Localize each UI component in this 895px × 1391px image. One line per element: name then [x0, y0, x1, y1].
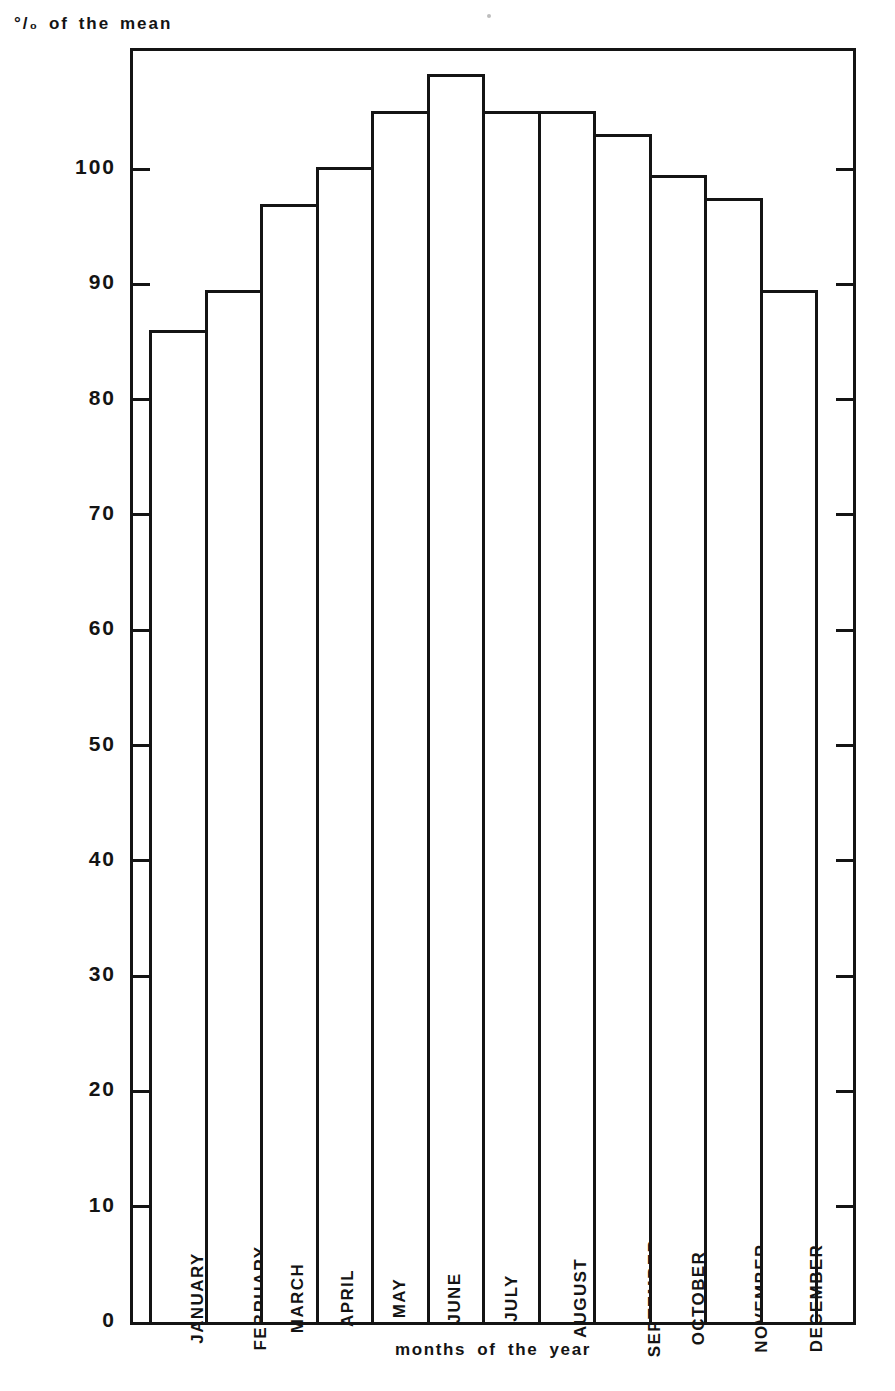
bar-june[interactable]: JUNE	[427, 74, 486, 1325]
y-tick-right-70	[836, 513, 853, 516]
bar-march[interactable]: MARCH	[260, 204, 319, 1325]
y-tick-left-70	[133, 513, 150, 516]
y-tick-left-30	[133, 975, 150, 978]
y-tick-label-60: 60	[40, 616, 116, 640]
bar-may[interactable]: MAY	[371, 111, 430, 1325]
y-tick-left-10	[133, 1205, 150, 1208]
y-tick-left-60	[133, 629, 150, 632]
plot-frame-right	[853, 48, 856, 1325]
page-speck	[487, 14, 491, 18]
bar-december[interactable]: DECEMBER	[760, 290, 819, 1325]
bar-label-wrapper: JUNE	[430, 1288, 483, 1308]
y-tick-left-50	[133, 744, 150, 747]
y-tick-left-40	[133, 859, 150, 862]
bar-january[interactable]: JANUARY	[149, 330, 208, 1325]
bar-label-june: JUNE	[446, 1273, 466, 1324]
y-tick-right-100	[836, 168, 853, 171]
y-tick-label-40: 40	[40, 847, 116, 871]
bar-label-wrapper: OCTOBER	[652, 1288, 705, 1308]
bar-label-wrapper: AUGUST	[541, 1288, 594, 1308]
bar-label-july: JULY	[501, 1274, 521, 1322]
bar-label-march: MARCH	[288, 1263, 308, 1333]
y-tick-label-50: 50	[40, 732, 116, 756]
bar-august[interactable]: AUGUST	[538, 111, 597, 1325]
bar-label-wrapper: JULY	[485, 1288, 538, 1308]
y-tick-left-20	[133, 1090, 150, 1093]
bar-october[interactable]: OCTOBER	[649, 175, 708, 1325]
y-tick-right-60	[836, 629, 853, 632]
y-tick-left-90	[133, 283, 150, 286]
y-tick-label-30: 30	[40, 962, 116, 986]
bar-label-august: AUGUST	[571, 1258, 591, 1338]
bar-label-wrapper: JANUARY	[152, 1288, 205, 1308]
y-tick-right-20	[836, 1090, 853, 1093]
y-tick-label-80: 80	[40, 386, 116, 410]
bar-label-wrapper: APRIL	[319, 1288, 372, 1308]
bar-label-april: APRIL	[338, 1269, 358, 1327]
y-tick-label-90: 90	[40, 270, 116, 294]
y-tick-label-0: 0	[38, 1308, 116, 1332]
bar-label-may: MAY	[390, 1278, 410, 1318]
y-tick-label-10: 10	[40, 1193, 116, 1217]
bar-label-wrapper: MAY	[374, 1288, 427, 1308]
y-tick-right-10	[836, 1205, 853, 1208]
bar-label-wrapper: DECEMBER	[763, 1288, 816, 1308]
y-tick-right-40	[836, 859, 853, 862]
y-tick-label-20: 20	[40, 1077, 116, 1101]
bar-label-wrapper: NOVEMBER	[707, 1288, 760, 1308]
bar-label-wrapper: FEBRUARY	[208, 1288, 261, 1308]
y-tick-right-30	[836, 975, 853, 978]
y-axis-line	[130, 48, 133, 1325]
bar-april[interactable]: APRIL	[316, 167, 375, 1325]
plot-frame-top	[130, 48, 856, 51]
bar-september[interactable]: SEPTEMBER	[593, 134, 652, 1325]
x-axis-label: months of the year	[130, 1340, 856, 1360]
bar-label-wrapper: MARCH	[263, 1288, 316, 1308]
y-tick-left-80	[133, 398, 150, 401]
bar-label-wrapper: SEPTEMBER	[596, 1288, 649, 1308]
y-tick-right-50	[836, 744, 853, 747]
y-tick-label-100: 100	[40, 155, 116, 179]
y-tick-right-90	[836, 283, 853, 286]
y-axis-label: °/₀ of the mean	[14, 14, 172, 34]
bar-label-december: DECEMBER	[807, 1244, 827, 1353]
y-tick-right-80	[836, 398, 853, 401]
bar-july[interactable]: JULY	[482, 111, 541, 1325]
bar-chart-figure: °/₀ of the mean 0102030405060708090100 J…	[0, 0, 895, 1391]
y-tick-left-100	[133, 168, 150, 171]
y-tick-label-70: 70	[40, 501, 116, 525]
bar-november[interactable]: NOVEMBER	[704, 198, 763, 1325]
bar-february[interactable]: FEBRUARY	[205, 290, 264, 1325]
